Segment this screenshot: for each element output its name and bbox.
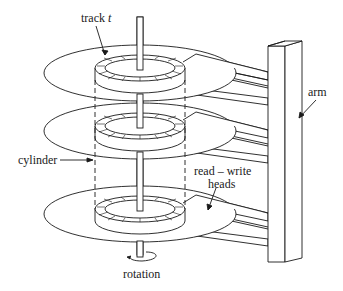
platter-middle xyxy=(44,94,268,159)
label-heads: heads xyxy=(208,178,235,191)
label-cylinder: cylinder xyxy=(18,154,57,167)
label-track-text: track xyxy=(81,11,105,25)
label-track-variable: t xyxy=(108,11,111,25)
label-track: track t xyxy=(81,12,111,25)
label-arm: arm xyxy=(308,86,327,99)
platter-top xyxy=(44,17,268,101)
disk-diagram xyxy=(0,0,343,291)
arm-assembly xyxy=(268,41,302,262)
label-rotation: rotation xyxy=(123,268,160,281)
